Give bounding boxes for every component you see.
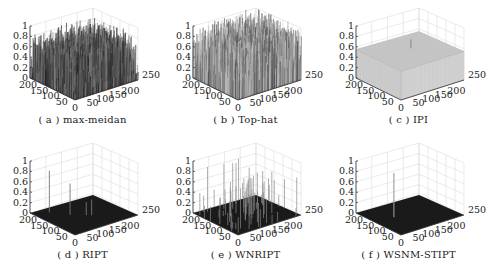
svg-text:0.8: 0.8 <box>13 165 28 176</box>
panel-e: 00.20.40.60.8120015010050050100150200250… <box>163 135 328 270</box>
svg-text:1: 1 <box>185 155 191 166</box>
surface-plot-a: 00.20.40.60.8120015010050050100150200250 <box>0 0 165 115</box>
svg-text:50: 50 <box>56 231 68 242</box>
panel-f: 00.20.40.60.8120015010050050100150200250… <box>326 135 491 270</box>
svg-text:1: 1 <box>348 20 354 31</box>
svg-text:200: 200 <box>447 220 465 231</box>
surface-plot-e: 00.20.40.60.8120015010050050100150200250 <box>163 135 328 250</box>
surface-plot-b: 00.20.40.60.8120015010050050100150200250 <box>163 0 328 115</box>
svg-text:0: 0 <box>235 237 241 248</box>
svg-text:250: 250 <box>305 69 323 80</box>
svg-text:0.2: 0.2 <box>176 197 191 208</box>
svg-text:50: 50 <box>219 231 231 242</box>
svg-text:250: 250 <box>468 204 486 215</box>
svg-text:0: 0 <box>235 102 241 113</box>
caption-f: ( f ) WSNM-STIPT <box>326 249 491 260</box>
svg-text:0.6: 0.6 <box>339 176 354 187</box>
svg-text:50: 50 <box>382 231 394 242</box>
svg-text:250: 250 <box>142 204 160 215</box>
svg-text:200: 200 <box>284 85 302 96</box>
svg-text:1: 1 <box>185 20 191 31</box>
svg-text:50: 50 <box>219 96 231 107</box>
svg-text:0.6: 0.6 <box>339 41 354 52</box>
caption-e: ( e ) WNRIPT <box>163 249 328 260</box>
svg-text:200: 200 <box>121 220 139 231</box>
caption-d: ( d ) RIPT <box>0 249 165 260</box>
svg-text:0.4: 0.4 <box>339 51 354 62</box>
svg-text:250: 250 <box>305 204 323 215</box>
panel-c: 00.20.40.60.8120015010050050100150200250… <box>326 0 491 135</box>
caption-c: ( c ) IPI <box>326 114 491 125</box>
svg-text:250: 250 <box>468 69 486 80</box>
svg-text:250: 250 <box>142 69 160 80</box>
panel-d: 00.20.40.60.8120015010050050100150200250… <box>0 135 165 270</box>
panel-a: 00.20.40.60.8120015010050050100150200250… <box>0 0 165 135</box>
svg-text:200: 200 <box>447 85 465 96</box>
svg-text:1: 1 <box>22 20 28 31</box>
svg-text:0.2: 0.2 <box>13 197 28 208</box>
svg-text:0.2: 0.2 <box>339 197 354 208</box>
svg-text:0: 0 <box>398 237 404 248</box>
svg-text:50: 50 <box>382 96 394 107</box>
svg-text:1: 1 <box>22 155 28 166</box>
svg-text:0.4: 0.4 <box>176 186 191 197</box>
svg-text:0.2: 0.2 <box>13 62 28 73</box>
panel-b: 00.20.40.60.8120015010050050100150200250… <box>163 0 328 135</box>
svg-text:200: 200 <box>284 220 302 231</box>
svg-text:0.6: 0.6 <box>176 41 191 52</box>
svg-text:50: 50 <box>56 96 68 107</box>
svg-text:0.4: 0.4 <box>176 51 191 62</box>
surface-plot-f: 00.20.40.60.8120015010050050100150200250 <box>326 135 491 250</box>
svg-text:0: 0 <box>72 102 78 113</box>
svg-text:1: 1 <box>348 155 354 166</box>
svg-text:0.8: 0.8 <box>13 30 28 41</box>
surface-plot-d: 00.20.40.60.8120015010050050100150200250 <box>0 135 165 250</box>
svg-text:0.2: 0.2 <box>176 62 191 73</box>
svg-text:200: 200 <box>121 85 139 96</box>
svg-text:0.8: 0.8 <box>339 30 354 41</box>
svg-text:0: 0 <box>72 237 78 248</box>
svg-text:0.4: 0.4 <box>13 186 28 197</box>
svg-text:0: 0 <box>398 102 404 113</box>
caption-b: ( b ) Top-hat <box>163 114 328 125</box>
caption-a: ( a ) max-meidan <box>0 114 165 125</box>
svg-text:0.4: 0.4 <box>13 51 28 62</box>
svg-text:0.8: 0.8 <box>339 165 354 176</box>
svg-text:0.8: 0.8 <box>176 30 191 41</box>
svg-text:0.4: 0.4 <box>339 186 354 197</box>
svg-text:0.8: 0.8 <box>176 165 191 176</box>
surface-plot-c: 00.20.40.60.8120015010050050100150200250 <box>326 0 491 115</box>
svg-text:0.2: 0.2 <box>339 62 354 73</box>
svg-text:0.6: 0.6 <box>13 41 28 52</box>
svg-text:0.6: 0.6 <box>176 176 191 187</box>
svg-text:0.6: 0.6 <box>13 176 28 187</box>
